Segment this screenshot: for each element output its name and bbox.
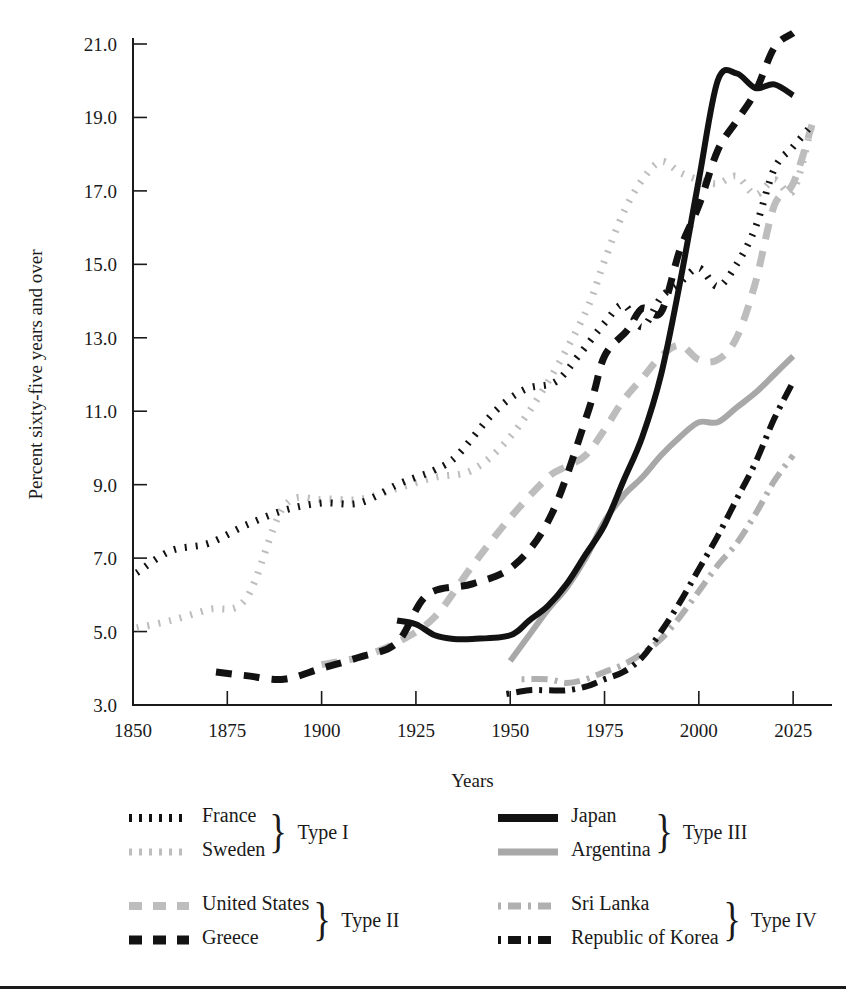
legend-type-label: Type I bbox=[297, 821, 348, 844]
legend-swatch-dashed-dark bbox=[128, 934, 190, 946]
legend-rows: Sri LankaRepublic of Korea bbox=[497, 890, 719, 950]
y-tick-label: 13.0 bbox=[84, 328, 117, 349]
legend-group-type-iv: Sri LankaRepublic of Korea}Type IV bbox=[497, 890, 817, 950]
legend-swatch-solid-dark bbox=[497, 812, 559, 824]
x-tick-label: 1875 bbox=[208, 720, 246, 741]
legend-item[interactable]: Greece bbox=[128, 924, 309, 950]
y-tick-label: 21.0 bbox=[84, 34, 117, 55]
legend-series-label: Greece bbox=[202, 926, 259, 948]
legend-series-label: United States bbox=[202, 892, 309, 914]
y-tick-label: 3.0 bbox=[93, 695, 117, 716]
legend-item[interactable]: Argentina bbox=[497, 836, 651, 862]
curly-brace-icon: } bbox=[723, 900, 741, 940]
series-line-sweden bbox=[137, 125, 812, 628]
legend-group-type-ii: United StatesGreece}Type II bbox=[128, 890, 399, 950]
y-tick-label: 17.0 bbox=[84, 181, 117, 202]
series-line-japan bbox=[397, 70, 793, 639]
legend-group-type-i: FranceSweden}Type I bbox=[128, 802, 349, 862]
y-axis-ticks: 3.05.07.09.011.013.015.017.019.021.0 bbox=[84, 34, 147, 716]
legend-type-label: Type III bbox=[683, 821, 748, 844]
legend-series-label: Republic of Korea bbox=[571, 926, 719, 948]
x-axis-ticks: 18501875190019251950197520002025 bbox=[114, 691, 812, 741]
chart-legend: FranceSweden}Type IJapanArgentina}Type I… bbox=[0, 798, 846, 973]
legend-line-sample-icon bbox=[497, 810, 559, 820]
x-tick-label: 1850 bbox=[114, 720, 152, 741]
y-tick-label: 19.0 bbox=[84, 107, 117, 128]
legend-item[interactable]: Sweden bbox=[128, 836, 265, 862]
y-tick-label: 11.0 bbox=[84, 401, 117, 422]
y-tick-label: 7.0 bbox=[93, 548, 117, 569]
legend-item[interactable]: United States bbox=[128, 890, 309, 916]
legend-series-label: Argentina bbox=[571, 838, 651, 860]
x-tick-label: 2025 bbox=[774, 720, 812, 741]
legend-type-label: Type IV bbox=[751, 909, 817, 932]
legend-line-sample-icon bbox=[128, 810, 190, 820]
y-tick-label: 15.0 bbox=[84, 254, 117, 275]
plot-area: 3.05.07.09.011.013.015.017.019.021.01850… bbox=[0, 0, 846, 800]
legend-rows: FranceSweden bbox=[128, 802, 265, 862]
legend-series-label: France bbox=[202, 804, 256, 826]
legend-brace-group: }Type III bbox=[651, 802, 748, 862]
axes-group bbox=[133, 38, 832, 705]
x-tick-label: 1950 bbox=[491, 720, 529, 741]
legend-swatch-dotted-light bbox=[128, 846, 190, 858]
bottom-divider-rule bbox=[0, 986, 846, 989]
legend-item[interactable]: Sri Lanka bbox=[497, 890, 719, 916]
legend-item[interactable]: Japan bbox=[497, 802, 651, 828]
legend-line-sample-icon bbox=[497, 932, 559, 942]
legend-series-label: Japan bbox=[571, 804, 617, 826]
legend-series-label: Sweden bbox=[202, 838, 265, 860]
curly-brace-icon: } bbox=[655, 812, 673, 852]
legend-swatch-dashed-light bbox=[128, 900, 190, 912]
legend-swatch-solid-light bbox=[497, 846, 559, 858]
axis-lines bbox=[133, 38, 832, 705]
x-tick-label: 1925 bbox=[397, 720, 435, 741]
legend-type-label: Type II bbox=[341, 909, 399, 932]
legend-item[interactable]: Republic of Korea bbox=[497, 924, 719, 950]
line-chart: 3.05.07.09.011.013.015.017.019.021.01850… bbox=[0, 0, 846, 800]
y-axis-title: Percent sixty-five years and over bbox=[25, 249, 46, 500]
x-axis-title: Years bbox=[451, 770, 493, 791]
x-tick-label: 1975 bbox=[586, 720, 624, 741]
legend-swatch-dashdot-dark bbox=[497, 934, 559, 946]
curly-brace-icon: } bbox=[270, 812, 288, 852]
legend-line-sample-icon bbox=[497, 898, 559, 908]
legend-brace-group: }Type IV bbox=[719, 890, 817, 950]
curly-brace-icon: } bbox=[313, 900, 331, 940]
legend-line-sample-icon bbox=[128, 844, 190, 854]
series-line-republic-of-korea bbox=[506, 382, 793, 694]
legend-item[interactable]: France bbox=[128, 802, 265, 828]
legend-swatch-dotted-dark bbox=[128, 812, 190, 824]
legend-swatch-dashdot-light bbox=[497, 900, 559, 912]
legend-series-label: Sri Lanka bbox=[571, 892, 649, 914]
legend-rows: JapanArgentina bbox=[497, 802, 651, 862]
legend-brace-group: }Type II bbox=[309, 890, 399, 950]
legend-group-type-iii: JapanArgentina}Type III bbox=[497, 802, 747, 862]
y-tick-label: 5.0 bbox=[93, 622, 117, 643]
legend-line-sample-icon bbox=[128, 898, 190, 908]
series-group bbox=[137, 33, 812, 694]
legend-line-sample-icon bbox=[128, 932, 190, 942]
x-tick-label: 2000 bbox=[680, 720, 718, 741]
y-tick-label: 9.0 bbox=[93, 475, 117, 496]
legend-rows: United StatesGreece bbox=[128, 890, 309, 950]
figure-container: 3.05.07.09.011.013.015.017.019.021.01850… bbox=[0, 0, 846, 1008]
series-line-france bbox=[137, 125, 812, 573]
legend-brace-group: }Type I bbox=[265, 802, 348, 862]
legend-line-sample-icon bbox=[497, 844, 559, 854]
x-tick-label: 1900 bbox=[303, 720, 341, 741]
